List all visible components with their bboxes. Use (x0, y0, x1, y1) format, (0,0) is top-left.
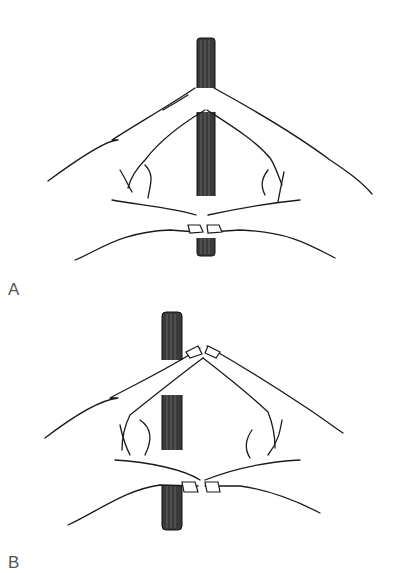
panel-b: B (0, 300, 395, 573)
panel-a: A (0, 0, 395, 300)
right-hand-b (203, 346, 343, 513)
panel-label-b: B (8, 553, 19, 573)
rod-b (162, 312, 182, 530)
panel-label-a: A (8, 280, 19, 300)
illustration-a (0, 0, 395, 300)
illustration-b (0, 300, 395, 573)
left-hand-a (48, 88, 205, 260)
right-hand-a (207, 88, 372, 258)
